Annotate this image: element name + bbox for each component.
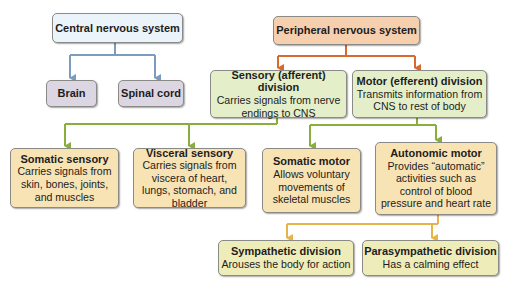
cns-node: Central nervous system xyxy=(52,13,183,43)
somatic-motor-node: Somatic motor Allows voluntary movements… xyxy=(262,148,361,213)
pns-connector xyxy=(278,45,415,68)
brain-node: Brain xyxy=(46,80,97,107)
somatic-sensory-node: Somatic sensory Carries signals from ski… xyxy=(10,148,119,208)
brain-title: Brain xyxy=(57,87,85,100)
parasympathetic-division-title: Parasympathetic division xyxy=(364,245,497,258)
sympathetic-division-desc: Arouses the body for action xyxy=(222,258,351,271)
motor-division-title: Motor (efferent) division xyxy=(357,75,483,88)
visceral-sensory-node: Visceral sensory Carries signals from vi… xyxy=(133,148,246,208)
autonomic-motor-node: Autonomic motor Provides “automatic” act… xyxy=(375,142,497,215)
parasympathetic-division-node: Parasympathetic division Has a calming e… xyxy=(362,240,499,276)
cns-connector xyxy=(70,43,155,78)
parasympathetic-division-desc: Has a calming effect xyxy=(383,258,479,271)
spinal-cord-title: Spinal cord xyxy=(121,87,181,100)
pns-node: Peripheral nervous system xyxy=(273,16,420,45)
visceral-sensory-desc: Carries signals from viscera of heart, l… xyxy=(137,159,242,209)
somatic-sensory-title: Somatic sensory xyxy=(20,153,108,166)
sensory-division-desc: Carries signals from nerve endings to CN… xyxy=(214,94,343,119)
somatic-motor-title: Somatic motor xyxy=(273,155,350,168)
motor-division-node: Motor (efferent) division Transmits info… xyxy=(352,70,487,118)
visceral-sensory-title: Visceral sensory xyxy=(146,147,233,160)
sympathetic-division-title: Sympathetic division xyxy=(231,245,341,258)
sympathetic-division-node: Sympathetic division Arouses the body fo… xyxy=(218,240,354,276)
somatic-sensory-desc: Carries signals from skin, bones, joints… xyxy=(16,165,113,203)
autonomic-motor-title: Autonomic motor xyxy=(390,147,482,160)
autonomic-connector xyxy=(287,215,438,238)
pns-title: Peripheral nervous system xyxy=(276,24,417,37)
cns-title: Central nervous system xyxy=(55,22,180,35)
somatic-motor-desc: Allows voluntary movements of skeletal m… xyxy=(271,168,352,206)
sensory-division-title: Sensory (afferent) division xyxy=(214,69,343,94)
spinal-cord-node: Spinal cord xyxy=(118,80,184,107)
sensory-division-node: Sensory (afferent) division Carries sign… xyxy=(210,70,347,118)
autonomic-motor-desc: Provides “automatic” activities such as … xyxy=(379,160,493,210)
motor-division-desc: Transmits information from CNS to rest o… xyxy=(356,88,483,113)
